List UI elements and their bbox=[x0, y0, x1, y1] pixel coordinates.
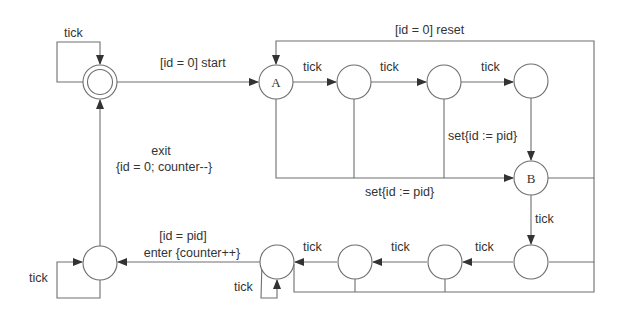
state-s9 bbox=[260, 245, 294, 279]
label-start: [id = 0] start bbox=[160, 56, 226, 70]
label-init-loop: tick bbox=[64, 26, 84, 40]
state-diagram: A B tick [id = 0] start [id = 0] reset t… bbox=[0, 0, 622, 316]
label-tick-B-s6: tick bbox=[535, 212, 555, 226]
label-tick-s8-s9: tick bbox=[303, 240, 323, 254]
state-B: B bbox=[514, 161, 548, 195]
state-s10 bbox=[83, 246, 117, 280]
label-tick-s7-s8: tick bbox=[391, 240, 411, 254]
state-s4 bbox=[514, 64, 548, 98]
state-initial bbox=[83, 65, 117, 99]
state-s7 bbox=[428, 245, 462, 279]
label-tick-s3-s4: tick bbox=[481, 60, 501, 74]
edge-reset-bottom bbox=[549, 178, 594, 262]
label-tick-s2-s3: tick bbox=[380, 60, 400, 74]
label-tick-s6-s7: tick bbox=[475, 240, 495, 254]
svg-text:A: A bbox=[271, 75, 281, 90]
state-s8 bbox=[338, 245, 372, 279]
label-tick-A-s2: tick bbox=[303, 60, 323, 74]
state-s3 bbox=[427, 65, 461, 99]
svg-text:B: B bbox=[527, 171, 536, 186]
label-enter-action: enter {counter++} bbox=[144, 246, 241, 260]
label-s10-loop: tick bbox=[29, 271, 49, 285]
label-enter-guard: [id = pid] bbox=[159, 229, 207, 243]
state-s6 bbox=[514, 245, 548, 279]
label-exit-action: {id = 0; counter--} bbox=[116, 160, 212, 174]
edge-reset bbox=[276, 41, 594, 178]
state-s2 bbox=[337, 65, 371, 99]
state-A: A bbox=[259, 65, 293, 99]
label-s9-loop: tick bbox=[234, 280, 254, 294]
label-set-s4-B: set{id := pid} bbox=[448, 129, 517, 143]
label-exit-event: exit bbox=[151, 144, 171, 158]
label-set-A-B: set{id := pid} bbox=[365, 185, 434, 199]
label-reset: [id = 0] reset bbox=[395, 23, 465, 37]
